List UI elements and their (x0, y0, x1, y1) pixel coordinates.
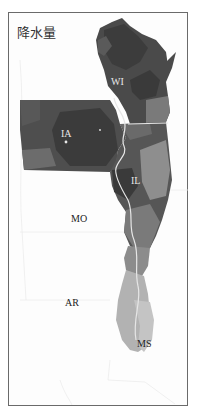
state-label-wi: WI (111, 76, 124, 87)
region-iowa (20, 100, 126, 172)
state-label-ia: IA (61, 128, 72, 139)
state-label-il: IL (131, 175, 140, 186)
precipitation-map (0, 0, 198, 417)
state-label-ms: MS (137, 338, 151, 349)
state-label-ar: AR (65, 297, 79, 308)
map-title: 降水量 (17, 22, 56, 41)
state-label-mo: MO (71, 213, 87, 224)
